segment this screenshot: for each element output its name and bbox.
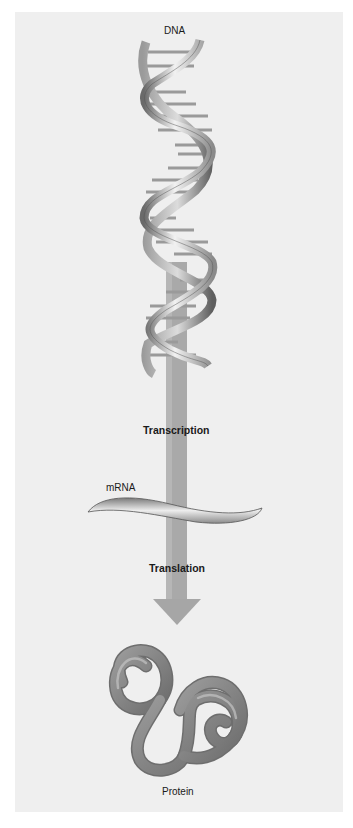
central-dogma-illustration bbox=[0, 0, 353, 828]
dna-label: DNA bbox=[164, 25, 185, 36]
mrna-label: mRNA bbox=[106, 482, 135, 493]
protein-label: Protein bbox=[162, 786, 194, 797]
protein-structure bbox=[115, 651, 241, 771]
transcription-label: Transcription bbox=[143, 424, 210, 436]
translation-label: Translation bbox=[149, 562, 205, 574]
